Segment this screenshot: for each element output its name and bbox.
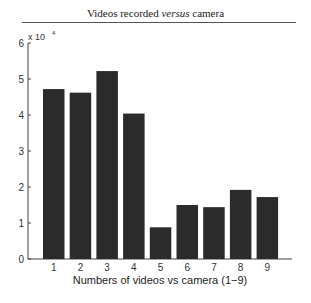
x-tick-label: 9 (265, 262, 271, 273)
x-tick-label: 6 (184, 262, 190, 273)
y-scale-exponent: 4 (52, 30, 56, 36)
bar-camera-7 (203, 207, 225, 259)
bar-camera-1 (43, 89, 65, 259)
x-tick-label: 1 (51, 262, 57, 273)
y-scale-multiplier: x 10 (28, 32, 45, 42)
bar-camera-9 (257, 197, 279, 259)
x-tick-label: 4 (131, 262, 137, 273)
bar-camera-8 (230, 190, 252, 259)
x-tick-label: 8 (238, 262, 244, 273)
x-tick-label: 3 (104, 262, 110, 273)
bar-chart: 0123456x 104123456789 (0, 0, 311, 303)
x-tick-label: 2 (78, 262, 84, 273)
x-tick-label: 5 (158, 262, 164, 273)
x-tick-label: 7 (211, 262, 217, 273)
y-tick-label: 0 (18, 254, 24, 265)
y-tick-label: 2 (18, 182, 24, 193)
y-tick-label: 6 (18, 38, 24, 49)
y-tick-label: 1 (18, 218, 24, 229)
y-tick-label: 3 (18, 146, 24, 157)
y-tick-label: 5 (18, 74, 24, 85)
bar-camera-5 (150, 227, 172, 259)
bar-camera-4 (123, 114, 145, 259)
bar-camera-3 (96, 71, 118, 259)
bar-camera-2 (70, 93, 92, 259)
x-axis-label: Numbers of videos vs camera (1−9) (28, 274, 292, 286)
bar-camera-6 (177, 205, 199, 259)
y-tick-label: 4 (18, 110, 24, 121)
